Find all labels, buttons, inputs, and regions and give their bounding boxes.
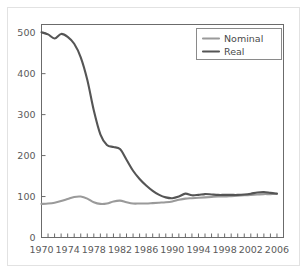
chart-figure: 0100200300400500 19701974197819821986199…: [0, 0, 307, 273]
x-tick-label-1994: 1994: [186, 244, 210, 255]
x-tick-label-1982: 1982: [108, 244, 132, 255]
x-axis-tick-labels: 1970197419781982198619901994199820022006: [29, 244, 289, 255]
x-tick-label-1974: 1974: [56, 244, 80, 255]
x-tick-label-1998: 1998: [213, 244, 237, 255]
y-tick-label-100: 100: [17, 191, 35, 202]
x-tick-label-1970: 1970: [29, 244, 53, 255]
chart-legend[interactable]: NominalReal: [197, 29, 282, 60]
x-axis-minor-ticks: [42, 234, 277, 238]
x-tick-label-1990: 1990: [160, 244, 184, 255]
y-tick-label-400: 400: [17, 68, 35, 79]
y-axis-ticks: [42, 33, 46, 197]
x-tick-label-2006: 2006: [265, 244, 289, 255]
y-axis-tick-labels: 0100200300400500: [17, 27, 35, 243]
y-tick-label-0: 0: [29, 232, 35, 243]
line-chart: 0100200300400500 19701974197819821986199…: [0, 0, 307, 273]
legend-label-nominal: Nominal: [224, 33, 263, 44]
x-tick-label-2002: 2002: [239, 244, 263, 255]
y-tick-label-300: 300: [17, 109, 35, 120]
x-tick-label-1978: 1978: [82, 244, 106, 255]
legend-label-real: Real: [224, 46, 244, 57]
y-tick-label-500: 500: [17, 27, 35, 38]
y-tick-label-200: 200: [17, 150, 35, 161]
x-tick-label-1986: 1986: [134, 244, 158, 255]
